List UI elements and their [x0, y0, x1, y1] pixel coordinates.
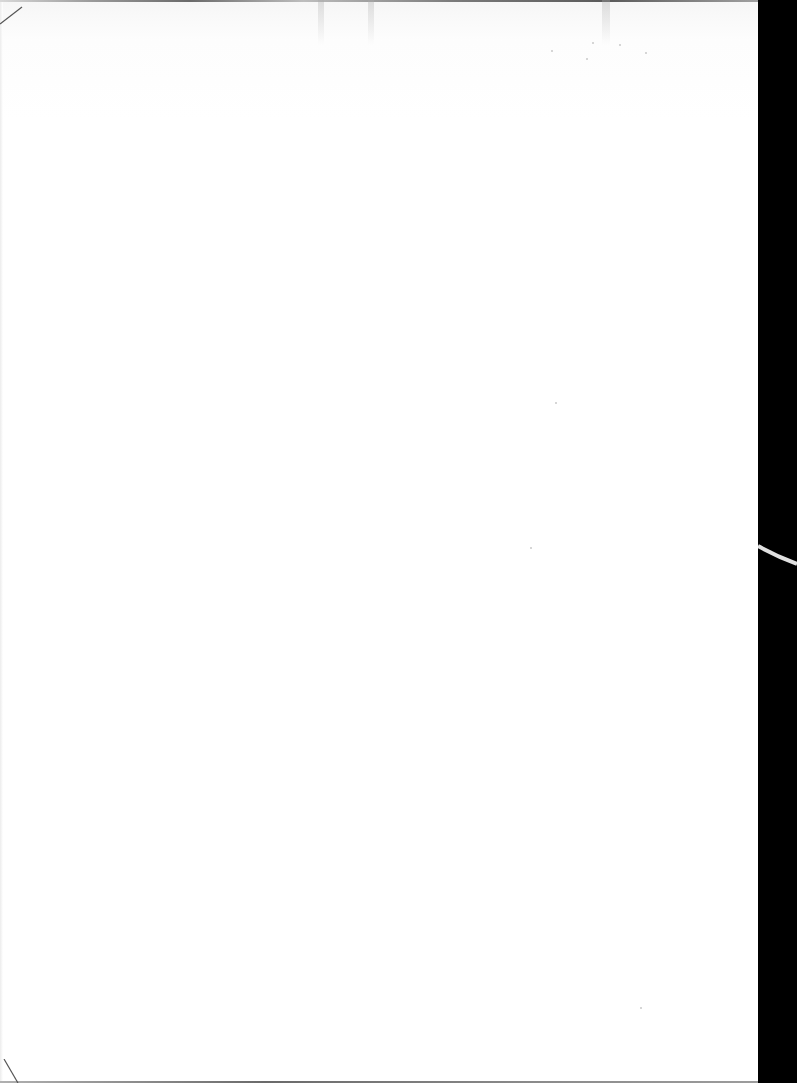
- corner-crop-mark-top-left: [0, 6, 24, 30]
- dust-speck: [619, 44, 621, 46]
- corner-crop-mark-bottom-left: [0, 1059, 24, 1083]
- scan-smudge: [602, 0, 610, 45]
- dust-speck: [640, 1007, 642, 1009]
- dust-speck: [555, 402, 557, 404]
- scanned-page: [0, 0, 797, 1083]
- scan-smudge: [368, 0, 374, 45]
- blank-paper-sheet: [0, 0, 758, 1083]
- paper-top-edge-shadow: [0, 0, 758, 2]
- dust-speck: [592, 42, 594, 44]
- dust-speck: [645, 52, 647, 54]
- paper-left-edge: [0, 0, 3, 1083]
- paper-curl-streak: [758, 540, 797, 580]
- dust-speck: [530, 547, 532, 549]
- scan-smudge: [318, 0, 324, 45]
- dust-speck: [551, 50, 553, 52]
- dust-speck: [586, 58, 588, 60]
